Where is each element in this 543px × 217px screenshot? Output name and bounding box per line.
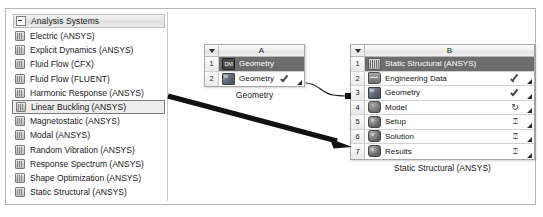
- cell-body: Results⍰: [365, 144, 534, 159]
- row-number: 5: [351, 115, 365, 129]
- cell-status-attention-required: ⍰: [509, 117, 521, 126]
- toolbox-item-label: Harmonic Response (ANSYS): [30, 88, 144, 98]
- toolbox-group-header-analysis-systems[interactable]: Analysis Systems: [13, 14, 165, 28]
- cell-body: Geometry: [219, 57, 304, 71]
- results-icon: [368, 145, 381, 157]
- cell-B5[interactable]: 5Setup⍰: [351, 115, 534, 130]
- cell-body: Setup⍰: [365, 115, 534, 129]
- row-number: 1: [205, 57, 219, 71]
- toolbox-item-linear-buckling-ansys[interactable]: Linear Buckling (ANSYS): [12, 100, 165, 114]
- triangle-down-icon[interactable]: [527, 79, 532, 84]
- triangle-down-icon[interactable]: [527, 123, 532, 128]
- toolbox-item-electric-ansys[interactable]: Electric (ANSYS): [11, 29, 167, 43]
- analysis-system-icon: [15, 59, 25, 69]
- toolbox-item-explicit-dynamics-ansys[interactable]: Explicit Dynamics (ANSYS): [11, 43, 167, 57]
- system-block-a: A 1Geometry2Geometry Geometry: [204, 44, 305, 100]
- analysis-system-icon: [15, 116, 25, 126]
- toolbox-item-label: Magnetostatic (ANSYS): [30, 116, 120, 126]
- cell-status-attention-required: ⍰: [509, 132, 521, 141]
- system-b-menu-button[interactable]: [351, 45, 365, 56]
- toolbox-item-harmonic-response-ansys[interactable]: Harmonic Response (ANSYS): [11, 86, 167, 100]
- analysis-system-icon: [15, 74, 25, 84]
- analysis-system-icon: [368, 58, 381, 70]
- cell-A2[interactable]: 2Geometry: [205, 72, 304, 87]
- analysis-system-icon: [15, 159, 25, 169]
- cell-body: Model↻: [365, 101, 534, 115]
- cell-expander-handle[interactable]: [295, 72, 302, 87]
- cell-label: Model: [385, 103, 505, 112]
- cell-B3[interactable]: 3Geometry: [351, 86, 534, 101]
- cell-expander-handle[interactable]: [525, 72, 532, 86]
- cell-B6[interactable]: 6Solution⍰: [351, 130, 534, 145]
- link-terminal-square[interactable]: [345, 93, 351, 99]
- cell-expander-handle[interactable]: [525, 144, 532, 159]
- status-check-icon: [511, 75, 520, 82]
- triangle-down-icon[interactable]: [527, 108, 532, 113]
- system-a-rows: 1Geometry2Geometry: [205, 57, 304, 86]
- geometry-cube-icon: [222, 73, 235, 85]
- cell-status-up-to-date: [279, 75, 291, 82]
- toolbox-item-fluid-flow-cfx[interactable]: Fluid Flow (CFX): [11, 57, 167, 71]
- cell-status-refresh-required: ↻: [509, 103, 521, 112]
- cell-label: Solution: [385, 132, 505, 141]
- system-b-grid: B 1Static Structural (ANSYS)2Engineering…: [350, 44, 535, 160]
- triangle-down-icon[interactable]: [527, 137, 532, 142]
- system-a-column-letter: A: [219, 45, 304, 56]
- toolbox-item-label: Electric (ANSYS): [30, 31, 95, 41]
- cell-expander-handle[interactable]: [525, 86, 532, 100]
- chevron-down-icon[interactable]: [209, 49, 215, 53]
- analysis-system-icon: [15, 187, 25, 197]
- triangle-down-icon[interactable]: [297, 80, 302, 85]
- analysis-system-icon: [15, 173, 25, 183]
- status-check-icon: [511, 89, 520, 96]
- toolbox-item-label: Random Vibration (ANSYS): [30, 145, 135, 155]
- toolbox-item-list: Electric (ANSYS)Explicit Dynamics (ANSYS…: [11, 29, 167, 199]
- geometry-cube-icon: [368, 87, 381, 99]
- analysis-system-icon: [15, 45, 25, 55]
- toolbox-panel: Analysis Systems Electric (ANSYS)Explici…: [11, 12, 168, 201]
- cell-expander-handle: [295, 57, 302, 71]
- row-number: 4: [351, 101, 365, 115]
- cell-B7[interactable]: 7Results⍰: [351, 144, 534, 159]
- analysis-system-icon: [15, 130, 25, 140]
- setup-icon: [368, 116, 381, 128]
- cell-expander-handle[interactable]: [525, 101, 532, 115]
- toolbox-item-response-spectrum-ansys[interactable]: Response Spectrum (ANSYS): [11, 157, 167, 171]
- cell-B4[interactable]: 4Model↻: [351, 101, 534, 116]
- cell-label: Static Structural (ANSYS): [385, 59, 505, 68]
- system-b-caption: Static Structural (ANSYS): [350, 163, 535, 173]
- cell-body: Static Structural (ANSYS): [365, 57, 534, 71]
- ansys-workbench-project-schematic: Analysis Systems Electric (ANSYS)Explici…: [0, 0, 543, 217]
- cell-expander-handle: [525, 57, 532, 71]
- toolbox-item-static-structural-ansys[interactable]: Static Structural (ANSYS): [11, 185, 167, 199]
- system-a-menu-button[interactable]: [205, 45, 219, 56]
- triangle-down-icon[interactable]: [527, 94, 532, 99]
- status-check-icon: [281, 75, 290, 82]
- cell-label: Results: [385, 147, 505, 156]
- cell-B1[interactable]: 1Static Structural (ANSYS): [351, 57, 534, 72]
- system-b-column-letter: B: [365, 45, 534, 56]
- toolbox-item-label: Shape Optimization (ANSYS): [30, 173, 141, 183]
- status-attention-required-icon: ⍰: [511, 147, 520, 156]
- toolbox-item-label: Static Structural (ANSYS): [30, 187, 127, 197]
- status-attention-required-icon: ⍰: [511, 117, 520, 126]
- cell-body: Solution⍰: [365, 130, 534, 144]
- toolbox-item-modal-ansys[interactable]: Modal (ANSYS): [11, 128, 167, 142]
- system-a-header: A: [205, 45, 304, 57]
- cell-expander-handle[interactable]: [525, 115, 532, 129]
- cell-expander-handle[interactable]: [525, 130, 532, 144]
- status-refresh-required-icon: ↻: [511, 103, 520, 112]
- toolbox-item-magnetostatic-ansys[interactable]: Magnetostatic (ANSYS): [11, 114, 167, 128]
- cell-status-up-to-date: [509, 75, 521, 82]
- toolbox-item-label: Fluid Flow (FLUENT): [30, 74, 110, 84]
- engineering-data-icon: [368, 72, 381, 84]
- toolbox-item-shape-optimization-ansys[interactable]: Shape Optimization (ANSYS): [11, 171, 167, 185]
- analysis-system-icon: [15, 88, 25, 98]
- chevron-down-icon[interactable]: [355, 49, 361, 53]
- cell-A1[interactable]: 1Geometry: [205, 57, 304, 72]
- cell-B2[interactable]: 2Engineering Data: [351, 72, 534, 87]
- collapse-minus-icon[interactable]: [16, 16, 26, 26]
- toolbox-item-fluid-flow-fluent[interactable]: Fluid Flow (FLUENT): [11, 72, 167, 86]
- toolbox-item-random-vibration-ansys[interactable]: Random Vibration (ANSYS): [11, 143, 167, 157]
- triangle-down-icon[interactable]: [527, 153, 532, 158]
